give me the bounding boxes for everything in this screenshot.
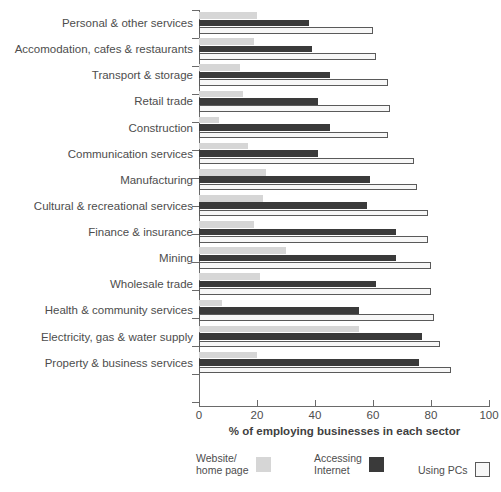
bar-accessing-internet: [199, 98, 318, 105]
bar-group: [199, 271, 489, 297]
bar-group: [199, 297, 489, 323]
y-axis-label-text: Property & business services: [45, 357, 193, 369]
y-axis-label: Property & business services: [0, 350, 199, 376]
y-axis-tick: [192, 150, 199, 151]
x-axis-tick-label: 20: [251, 409, 264, 421]
legend-item-pcs: Using PCs: [418, 462, 490, 477]
light-gray-swatch-icon: [256, 457, 271, 472]
bar-website-home-page: [199, 12, 257, 19]
y-axis-tick: [192, 66, 199, 67]
bar-groups: [199, 10, 489, 402]
bar-chart: Personal & other servicesAccomodation, c…: [0, 0, 501, 492]
dark-swatch-icon: [369, 457, 384, 472]
y-axis-tick: [192, 262, 199, 263]
y-axis-tick: [192, 402, 199, 403]
y-axis-label: Accomodation, cafes & restaurants: [0, 36, 199, 62]
y-axis-label-text: Mining: [159, 252, 193, 264]
y-axis-tick: [192, 178, 199, 179]
bar-using-pcs: [199, 367, 451, 374]
y-axis-tick: [192, 122, 199, 123]
chart-legend: Website/ home page Accessing Internet Us…: [196, 452, 496, 486]
bar-website-home-page: [199, 221, 254, 228]
y-axis-tick: [192, 290, 199, 291]
legend-label-pcs: Using PCs: [418, 464, 468, 476]
x-axis-line: [199, 406, 490, 407]
y-axis-tick: [192, 94, 199, 95]
y-axis-label: Retail trade: [0, 88, 199, 114]
bar-website-home-page: [199, 91, 243, 98]
legend-item-internet: Accessing Internet: [314, 452, 384, 476]
bar-using-pcs: [199, 132, 388, 139]
x-axis-tick-label: 0: [196, 409, 202, 421]
bar-accessing-internet: [199, 281, 376, 288]
x-axis-tick: [257, 400, 258, 407]
bar-using-pcs: [199, 53, 376, 60]
y-axis-label-text: Construction: [128, 122, 193, 134]
y-axis-label-text: Personal & other services: [62, 17, 193, 29]
y-axis-tick: [192, 38, 199, 39]
bar-using-pcs: [199, 341, 440, 348]
y-axis-label-text: Accomodation, cafes & restaurants: [15, 43, 193, 55]
bar-group: [199, 36, 489, 62]
bar-website-home-page: [199, 117, 219, 124]
bar-accessing-internet: [199, 202, 367, 209]
bar-website-home-page: [199, 143, 248, 150]
bar-accessing-internet: [199, 229, 396, 236]
y-axis-label: Manufacturing: [0, 167, 199, 193]
y-axis-label: Cultural & recreational services: [0, 193, 199, 219]
bar-website-home-page: [199, 195, 263, 202]
y-axis-label-text: Retail trade: [134, 95, 193, 107]
bar-website-home-page: [199, 38, 254, 45]
bar-website-home-page: [199, 247, 286, 254]
x-axis-tick: [199, 400, 200, 407]
bar-accessing-internet: [199, 176, 370, 183]
x-axis-tick: [489, 400, 490, 407]
y-axis-label: Electricity, gas & water supply: [0, 324, 199, 350]
y-axis-label-text: Health & community services: [45, 304, 193, 316]
y-axis-tick: [192, 234, 199, 235]
y-axis-label-text: Transport & storage: [92, 69, 193, 81]
bar-accessing-internet: [199, 72, 330, 79]
y-axis-tick: [192, 206, 199, 207]
bar-group: [199, 115, 489, 141]
y-axis-label: Mining: [0, 245, 199, 271]
bar-accessing-internet: [199, 150, 318, 157]
bar-using-pcs: [199, 105, 390, 112]
y-axis-labels: Personal & other servicesAccomodation, c…: [0, 10, 199, 402]
x-axis-tick-label: 80: [425, 409, 438, 421]
y-axis-label-text: Communication services: [68, 148, 193, 160]
x-axis-tick-label: 60: [367, 409, 380, 421]
bar-website-home-page: [199, 300, 222, 307]
bar-website-home-page: [199, 273, 260, 280]
y-axis-label-text: Finance & insurance: [88, 226, 193, 238]
bar-accessing-internet: [199, 333, 422, 340]
x-axis-tick: [373, 400, 374, 407]
y-axis-label-text: Electricity, gas & water supply: [41, 331, 193, 343]
bar-accessing-internet: [199, 124, 330, 131]
bar-accessing-internet: [199, 359, 419, 366]
y-axis-label-text: Wholesale trade: [110, 278, 193, 290]
bar-website-home-page: [199, 352, 257, 359]
bar-group: [199, 245, 489, 271]
x-axis-tick-label: 40: [309, 409, 322, 421]
bar-group: [199, 88, 489, 114]
x-axis-tick-label: 100: [479, 409, 498, 421]
bar-group: [199, 193, 489, 219]
bar-using-pcs: [199, 210, 428, 217]
x-axis-tick: [315, 400, 316, 407]
y-axis-label: Transport & storage: [0, 62, 199, 88]
legend-label-website: Website/ home page: [196, 452, 249, 476]
y-axis-label: Communication services: [0, 141, 199, 167]
bar-accessing-internet: [199, 46, 312, 53]
y-axis-label-text: Cultural & recreational services: [34, 200, 193, 212]
y-axis-label: Health & community services: [0, 297, 199, 323]
x-axis-title: % of employing businesses in each sector: [199, 425, 490, 437]
legend-item-website: Website/ home page: [196, 452, 271, 476]
bar-using-pcs: [199, 262, 431, 269]
bar-group: [199, 62, 489, 88]
y-axis-tick: [192, 318, 199, 319]
bar-group: [199, 10, 489, 36]
bar-using-pcs: [199, 158, 414, 165]
y-axis-tick: [192, 374, 199, 375]
bar-website-home-page: [199, 326, 359, 333]
